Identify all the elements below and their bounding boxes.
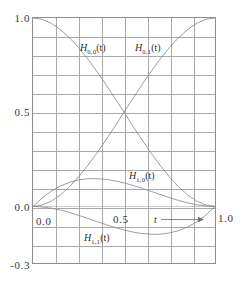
x-tick-0.0: 0.0 <box>36 216 52 227</box>
curve-label-h10: H1,0(t) <box>129 171 155 184</box>
y-tick--0.3: -0.3 <box>10 260 30 271</box>
curve-label-h00-arg: (t) <box>96 42 105 53</box>
curve-label-h01: H0,1(t) <box>135 43 161 56</box>
x-tick-0.5: 0.5 <box>113 214 129 225</box>
curve-label-h10-arg: (t) <box>145 170 154 181</box>
curve-label-h01-arg: (t) <box>151 42 160 53</box>
y-tick-1.0: 1.0 <box>14 13 30 24</box>
x-axis-arrow-icon <box>161 216 205 223</box>
curves-svg <box>33 18 215 263</box>
curve-label-h00: H0,0(t) <box>80 43 106 56</box>
plot-area: H0,0(t) H0,1(t) H1,0(t) H1,1(t) 0.0 0.5 … <box>32 17 216 264</box>
curve-h01 <box>33 18 215 206</box>
curve-label-h10-sub: 1,0 <box>136 176 145 183</box>
y-tick-0.5: 0.5 <box>14 107 30 118</box>
x-tick-1.0: 1.0 <box>218 213 234 224</box>
curve-label-h11-sub: 1,1 <box>91 238 100 245</box>
x-axis-variable-label: t <box>154 215 157 225</box>
curve-label-h00-sub: 0,0 <box>87 48 96 55</box>
curve-label-h01-sub: 0,1 <box>142 48 151 55</box>
hermite-basis-figure: 1.0 0.5 0.0 -0.3 <box>0 0 243 284</box>
curve-h10 <box>33 179 215 207</box>
y-axis-tick-labels: 1.0 0.5 0.0 -0.3 <box>0 17 30 264</box>
curve-label-h11-arg: (t) <box>100 232 109 243</box>
curve-label-h11: H1,1(t) <box>84 233 110 246</box>
y-tick-0.0: 0.0 <box>14 202 30 213</box>
